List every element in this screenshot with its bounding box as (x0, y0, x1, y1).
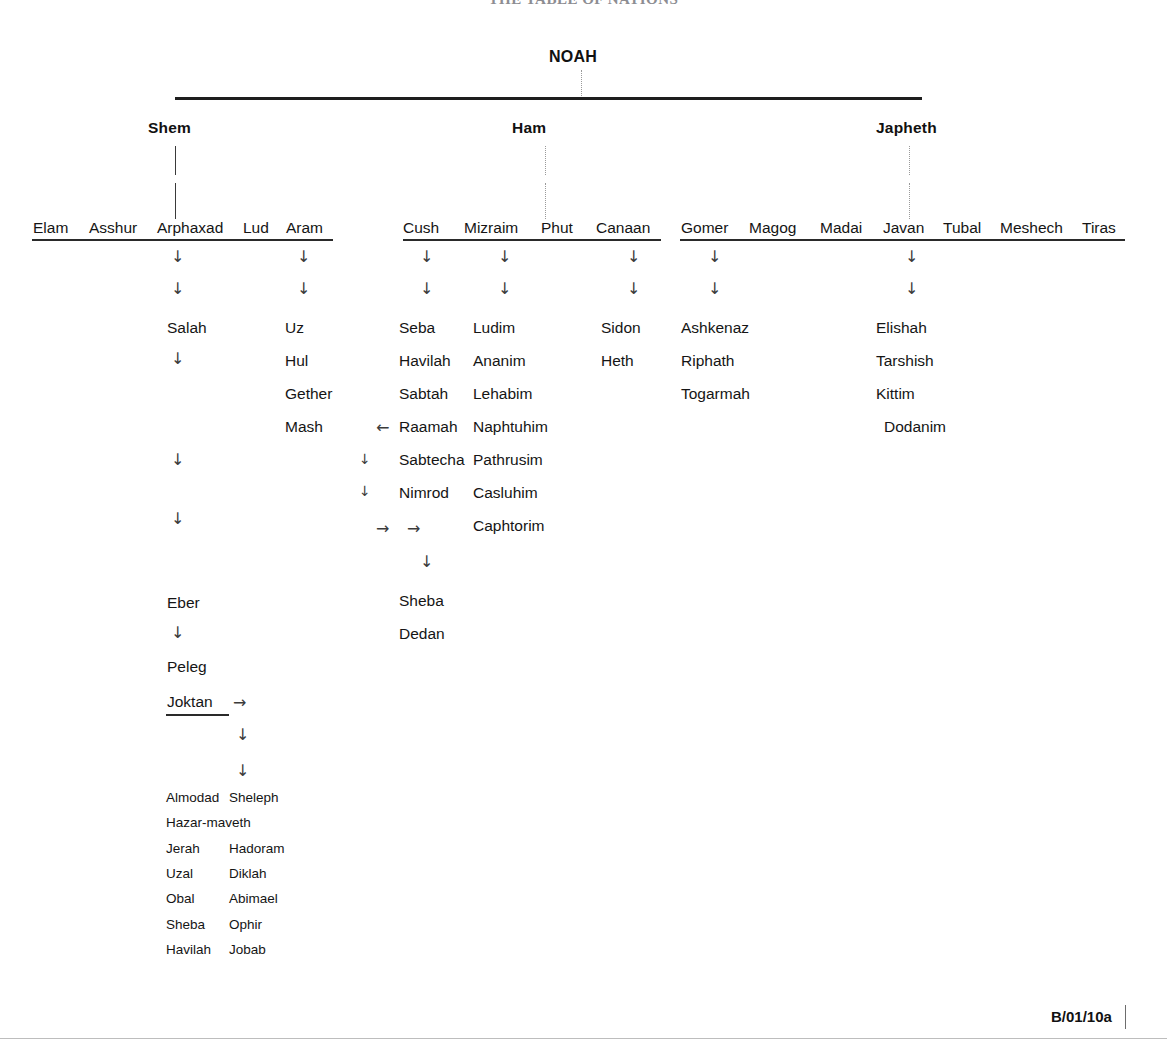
name-dedan: Dedan (399, 625, 445, 643)
name-abimael: Abimael (229, 891, 278, 906)
connector-shem-down-a (175, 146, 176, 175)
name-sabtah: Sabtah (399, 385, 448, 403)
name-heth: Heth (601, 352, 634, 370)
son-javan: Javan (883, 219, 924, 237)
underline-shem-sons (32, 239, 333, 241)
name-ludim: Ludim (473, 319, 515, 337)
name-havilah-cush: Havilah (399, 352, 451, 370)
arrow-arphaxad-down-1: ↓ (171, 249, 184, 265)
connector-ham-down-a (545, 146, 546, 175)
name-jobab: Jobab (229, 942, 266, 957)
son-asshur: Asshur (89, 219, 137, 237)
name-sheba-raamah: Sheba (399, 592, 444, 610)
son-elam: Elam (33, 219, 68, 237)
son-tubal: Tubal (943, 219, 981, 237)
name-ophir: Ophir (229, 917, 262, 932)
name-joktan: Joktan (167, 693, 213, 711)
arrow-sabtecha-down: ↓ (359, 452, 371, 466)
underline-ham-sons (403, 239, 661, 241)
name-dodanim: Dodanim (884, 418, 946, 436)
name-eber: Eber (167, 594, 200, 612)
branch-ham: Ham (512, 119, 546, 137)
arrow-joktan-right: → (233, 695, 246, 711)
arrow-canaan-down-2: ↓ (627, 281, 640, 297)
connector-shem-down-b (175, 183, 176, 219)
name-elishah: Elishah (876, 319, 927, 337)
arrow-javan-down-2: ↓ (905, 281, 918, 297)
arrow-joktan-down-1: ↓ (236, 727, 249, 743)
name-hazar-maveth: Hazar-maveth (166, 815, 251, 830)
name-almodad: Almodad (166, 790, 219, 805)
name-ananim: Ananim (473, 352, 526, 370)
arrow-raamah-down: ↓ (420, 554, 433, 570)
footer-code: B/01/10a (1051, 1008, 1112, 1025)
name-seba: Seba (399, 319, 435, 337)
name-jerah: Jerah (166, 841, 200, 856)
arrow-aram-down-1: ↓ (297, 249, 310, 265)
son-aram: Aram (286, 219, 323, 237)
footer-divider (0, 1038, 1167, 1039)
arrow-joktan-down-2: ↓ (236, 763, 249, 779)
name-peleg: Peleg (167, 658, 207, 676)
name-kittim: Kittim (876, 385, 915, 403)
name-sabtecha: Sabtecha (399, 451, 465, 469)
son-tiras: Tiras (1082, 219, 1116, 237)
son-gomer: Gomer (681, 219, 728, 237)
name-obal: Obal (166, 891, 195, 906)
arrow-eber-down: ↓ (171, 625, 184, 641)
arrow-gomer-down-1: ↓ (708, 249, 721, 265)
arrow-arphaxad-down-2: ↓ (171, 281, 184, 297)
son-phut: Phut (541, 219, 573, 237)
arrow-arphaxad-down-3: ↓ (171, 452, 184, 468)
name-salah: Salah (167, 319, 207, 337)
connector-japheth-down-b (909, 183, 910, 219)
name-sheleph: Sheleph (229, 790, 279, 805)
name-gether: Gether (285, 385, 332, 403)
son-cush: Cush (403, 219, 439, 237)
root-noah: NOAH (549, 48, 597, 66)
table-of-nations-chart: THE TABLE OF NATIONS NOAH Shem Ham Japhe… (0, 0, 1167, 1060)
name-uzal: Uzal (166, 866, 193, 881)
name-sidon: Sidon (601, 319, 641, 337)
son-meshech: Meshech (1000, 219, 1063, 237)
arrow-cush-down-2: ↓ (420, 281, 433, 297)
name-hadoram: Hadoram (229, 841, 285, 856)
arrow-arphaxad-down-4: ↓ (171, 511, 184, 527)
arrow-canaan-down-1: ↓ (627, 249, 640, 265)
name-havilah-joktan: Havilah (166, 942, 211, 957)
name-togarmah: Togarmah (681, 385, 750, 403)
arrow-mizraim-down-2: ↓ (498, 281, 511, 297)
name-caphtorim: Caphtorim (473, 517, 545, 535)
arrow-nimrod-down: ↓ (359, 484, 371, 498)
name-mash: Mash (285, 418, 323, 436)
arrow-aram-down-2: ↓ (297, 281, 310, 297)
name-tarshish: Tarshish (876, 352, 934, 370)
arrow-javan-down-1: ↓ (905, 249, 918, 265)
underline-japheth-sons (680, 239, 1125, 241)
underline-joktan (166, 714, 229, 716)
son-magog: Magog (749, 219, 796, 237)
son-mizraim: Mizraim (464, 219, 518, 237)
arrow-raamah-right-1: → (376, 521, 389, 537)
son-lud: Lud (243, 219, 269, 237)
name-pathrusim: Pathrusim (473, 451, 543, 469)
name-naphtuhim: Naphtuhim (473, 418, 548, 436)
connector-sons-bar (175, 97, 922, 100)
name-lehabim: Lehabim (473, 385, 532, 403)
connector-ham-down-b (545, 183, 546, 219)
branch-japheth: Japheth (876, 119, 937, 137)
name-ashkenaz: Ashkenaz (681, 319, 749, 337)
name-diklah: Diklah (229, 866, 267, 881)
connector-japheth-down-a (909, 146, 910, 175)
arrow-gomer-down-2: ↓ (708, 281, 721, 297)
name-uz: Uz (285, 319, 304, 337)
son-madai: Madai (820, 219, 862, 237)
arrow-raamah-right-2: → (407, 521, 420, 537)
name-casluhim: Casluhim (473, 484, 538, 502)
connector-noah-down (581, 70, 582, 98)
footer-code-rule (1125, 1005, 1126, 1029)
page-title: THE TABLE OF NATIONS (0, 0, 1167, 8)
arrow-cush-down-1: ↓ (420, 249, 433, 265)
name-hul: Hul (285, 352, 308, 370)
son-arphaxad: Arphaxad (157, 219, 223, 237)
